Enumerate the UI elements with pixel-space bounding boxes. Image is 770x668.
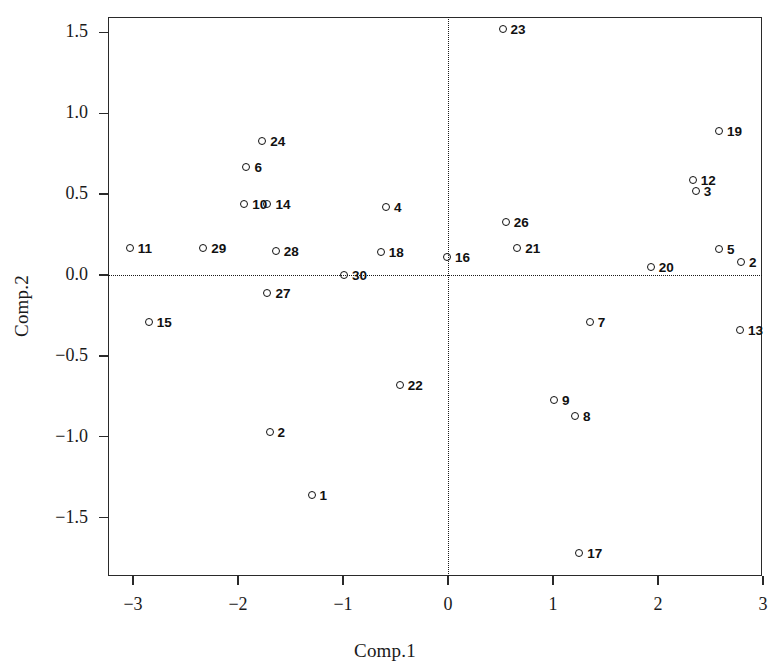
x-tick-mark xyxy=(552,576,554,585)
data-point-label: 12 xyxy=(701,174,716,188)
data-point-marker xyxy=(340,271,348,279)
x-tick-mark xyxy=(657,576,659,585)
data-point-marker xyxy=(126,244,134,252)
vertical-zero-line xyxy=(448,17,449,576)
data-point-marker xyxy=(145,318,153,326)
y-tick-mark xyxy=(99,355,108,357)
y-tick-mark xyxy=(99,436,108,438)
data-point-label: 27 xyxy=(275,287,290,301)
x-tick-mark xyxy=(762,576,764,585)
data-point-marker xyxy=(499,25,507,33)
y-tick-mark xyxy=(99,274,108,276)
data-point-marker xyxy=(550,396,558,404)
data-point-label: 14 xyxy=(275,198,290,212)
x-tick-mark xyxy=(237,576,239,585)
data-point-marker xyxy=(308,491,316,499)
data-point-label: 28 xyxy=(284,245,299,259)
x-tick-label: −3 xyxy=(113,594,153,615)
data-point-label: 7 xyxy=(598,316,606,330)
y-tick-mark xyxy=(99,113,108,115)
x-axis-title: Comp.1 xyxy=(0,640,770,662)
data-point-marker xyxy=(689,176,697,184)
data-point-marker xyxy=(692,187,700,195)
data-point-label: 6 xyxy=(254,161,262,175)
y-tick-mark xyxy=(99,32,108,34)
data-point-marker xyxy=(272,247,280,255)
x-tick-mark xyxy=(447,576,449,585)
data-point-label: 2 xyxy=(278,426,286,440)
data-point-label: 8 xyxy=(583,410,591,424)
y-tick-label: −1.5 xyxy=(28,507,88,528)
data-point-marker xyxy=(513,244,521,252)
data-point-label: 26 xyxy=(514,216,529,230)
data-point-label: 9 xyxy=(562,394,570,408)
data-point-label: 13 xyxy=(748,324,763,338)
data-point-label: 5 xyxy=(727,243,735,257)
plot-area xyxy=(108,17,762,576)
data-point-marker xyxy=(647,263,655,271)
horizontal-zero-line xyxy=(108,275,762,276)
y-tick-mark xyxy=(99,517,108,519)
data-point-label: 17 xyxy=(587,547,602,561)
x-tick-label: 1 xyxy=(533,594,573,615)
data-point-label: 18 xyxy=(389,246,404,260)
x-tick-mark xyxy=(132,576,134,585)
x-tick-label: 3 xyxy=(743,594,770,615)
x-tick-mark xyxy=(342,576,344,585)
scatter-plot-figure: −1.5−1.0−0.50.00.51.01.5−3−2−10123 12345… xyxy=(0,0,770,668)
data-point-label: 15 xyxy=(157,316,172,330)
data-point-marker xyxy=(715,245,723,253)
x-tick-label: −1 xyxy=(323,594,363,615)
y-tick-label: 0.5 xyxy=(28,183,88,204)
data-point-marker xyxy=(571,412,579,420)
y-tick-label: −0.5 xyxy=(28,345,88,366)
data-point-marker xyxy=(737,258,745,266)
data-point-label: 30 xyxy=(352,269,367,283)
y-tick-label: 1.5 xyxy=(28,21,88,42)
data-point-label: 4 xyxy=(394,201,402,215)
data-point-label: 1 xyxy=(320,489,328,503)
data-point-label: 20 xyxy=(659,261,674,275)
data-point-marker xyxy=(715,127,723,135)
data-point-marker xyxy=(266,428,274,436)
data-point-marker xyxy=(736,326,744,334)
x-tick-label: 2 xyxy=(638,594,678,615)
data-point-marker xyxy=(258,137,266,145)
data-point-label: 22 xyxy=(408,379,423,393)
data-point-marker xyxy=(586,318,594,326)
data-point-label: 29 xyxy=(211,242,226,256)
data-point-label: 11 xyxy=(138,242,152,256)
y-tick-label: 0.0 xyxy=(28,264,88,285)
y-tick-label: −1.0 xyxy=(28,426,88,447)
data-point-label: 24 xyxy=(270,135,285,149)
data-point-label: 19 xyxy=(727,125,742,139)
x-tick-label: −2 xyxy=(218,594,258,615)
data-point-label: 21 xyxy=(525,242,540,256)
data-point-label: 16 xyxy=(455,251,470,265)
y-tick-label: 1.0 xyxy=(28,102,88,123)
data-point-marker xyxy=(199,244,207,252)
data-point-marker xyxy=(396,381,404,389)
x-tick-label: 0 xyxy=(428,594,468,615)
y-tick-mark xyxy=(99,193,108,195)
data-point-marker xyxy=(502,218,510,226)
y-axis-title: Comp.2 xyxy=(11,246,33,366)
data-point-label: 2 xyxy=(749,256,757,270)
data-point-label: 23 xyxy=(511,23,526,37)
